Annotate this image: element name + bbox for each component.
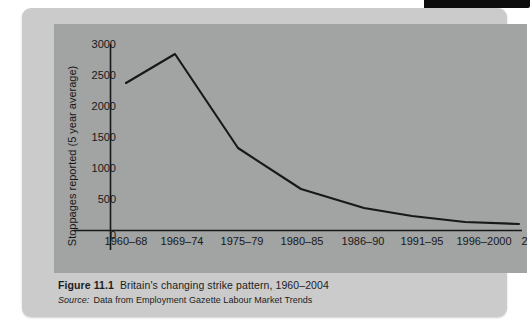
figure-source: Source:Data from Employment Gazette Labo… [58, 294, 508, 307]
scan-edge-bar [424, 0, 530, 8]
y-tick-label-1500: 1500 [92, 131, 116, 143]
y-tick-label-3000: 3000 [92, 38, 116, 50]
figure-caption-text: Britain's changing strike pattern, 1960–… [120, 279, 329, 291]
x-tick-label-1980-85: 1980–85 [281, 235, 324, 247]
figure-number-label: Figure 11.1 [58, 279, 114, 291]
source-label: Source: [58, 295, 89, 305]
x-tick-label-1996-2000: 1996–2000 [456, 235, 511, 247]
y-tick-label-2000: 2000 [92, 100, 116, 112]
x-tick-label-2001-04: 2001–04 [522, 235, 527, 247]
x-tick-label-1969-74: 1969–74 [161, 235, 204, 247]
y-tick-label-1000: 1000 [92, 162, 116, 174]
x-tick-label-1991-95: 1991–95 [401, 235, 444, 247]
scanned-figure-page: Stoppages reported (5 year average) 3000… [0, 0, 530, 333]
y-tick-label-500: 500 [98, 193, 116, 205]
chart-plot-panel: Stoppages reported (5 year average) 3000… [54, 24, 527, 273]
source-text: Data from Employment Gazette Labour Mark… [93, 295, 312, 305]
x-tick-label-1960-68: 1960–68 [105, 235, 148, 247]
x-axis-ticks: 1960–68 1969–74 1975–79 1980–85 1986–90 … [105, 235, 527, 247]
caption-block: Figure 11.1Britain's changing strike pat… [58, 278, 508, 307]
y-axis-title-group: Stoppages reported (5 year average) [66, 66, 78, 246]
y-axis-ticks: 3000 2500 2000 1500 1000 500 0 [92, 38, 116, 241]
y-tick-label-2500: 2500 [92, 69, 116, 81]
x-tick-label-1986-90: 1986–90 [342, 235, 385, 247]
figure-card: Stoppages reported (5 year average) 3000… [22, 8, 507, 317]
data-line-stoppages [126, 54, 519, 224]
x-tick-label-1975-79: 1975–79 [221, 235, 264, 247]
figure-caption: Figure 11.1Britain's changing strike pat… [58, 278, 508, 292]
y-axis-title: Stoppages reported (5 year average) [66, 66, 78, 246]
line-chart: Stoppages reported (5 year average) 3000… [54, 24, 527, 273]
